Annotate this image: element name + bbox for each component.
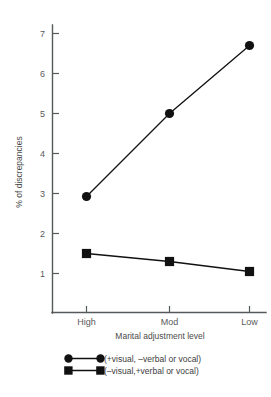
legend-label-1: (–visual,+verbal or vocal) (104, 366, 199, 376)
line-chart: 7 6 5 4 3 2 1 High Mod Low Marital adjus… (0, 0, 271, 397)
x-axis-ticks (87, 306, 250, 313)
x-axis-title: Marital adjustment level (115, 331, 204, 341)
y-tick-label-4: 4 (40, 149, 45, 159)
y-tick-label-3: 3 (40, 189, 45, 199)
data-point-circle-mod (165, 109, 174, 118)
square-marker-icon (64, 366, 72, 374)
data-point-square-mod (165, 257, 174, 266)
y-axis-ticks (53, 34, 60, 274)
data-point-circle-high (82, 192, 91, 201)
legend-entry-1: (–visual,+verbal or vocal) (64, 366, 199, 376)
x-tick-label-low: Low (241, 317, 258, 327)
x-tick-label-high: High (77, 317, 96, 327)
legend-label-0: (+visual, –verbal or vocal) (104, 354, 201, 364)
chart-legend: (+visual, –verbal or vocal) (–visual,+ve… (64, 354, 201, 376)
circle-marker-icon (64, 354, 72, 362)
y-tick-label-1: 1 (40, 269, 45, 279)
series-line-visual-positive (87, 46, 250, 197)
legend-entry-0: (+visual, –verbal or vocal) (64, 354, 201, 364)
chart-figure: 7 6 5 4 3 2 1 High Mod Low Marital adjus… (0, 0, 271, 397)
data-point-square-low (245, 267, 254, 276)
data-point-circle-low (245, 41, 254, 50)
x-tick-label-mod: Mod (161, 317, 179, 327)
y-axis-title: % of discrepancies (14, 136, 24, 207)
y-tick-label-6: 6 (40, 69, 45, 79)
y-tick-label-7: 7 (40, 29, 45, 39)
data-point-square-high (82, 249, 91, 258)
y-tick-label-2: 2 (40, 229, 45, 239)
y-tick-label-5: 5 (40, 109, 45, 119)
